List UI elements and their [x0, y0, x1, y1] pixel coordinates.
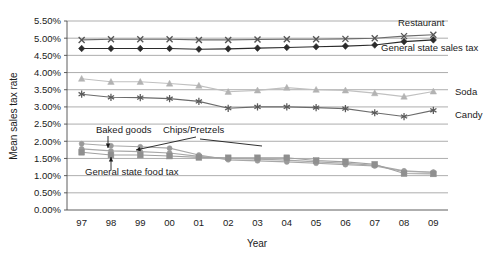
y-axis-tick-label: 1.00% — [34, 170, 61, 181]
annotation-leader-line — [200, 139, 262, 146]
x-axis-tick-label: 02 — [223, 217, 234, 228]
x-axis-tick-label: 09 — [428, 217, 439, 228]
x-axis-tick-label: 06 — [340, 217, 351, 228]
data-point-marker-diamond-filled — [196, 46, 202, 53]
x-axis-title: Year — [247, 238, 268, 249]
data-point-marker-square — [225, 155, 231, 161]
data-point-marker-square — [79, 149, 85, 155]
data-point-marker-circle-light — [167, 146, 172, 151]
x-axis-tick-label: 03 — [252, 217, 263, 228]
x-axis-tick-label: 08 — [399, 217, 410, 228]
data-point-marker-diamond-filled — [137, 45, 143, 52]
data-point-marker-square — [343, 159, 349, 165]
data-point-marker-triangle-up — [78, 75, 84, 81]
series-inline-label: Candy — [455, 109, 483, 120]
annotation-label: Chips/Pretzels — [163, 124, 224, 135]
data-point-marker-triangle-up — [430, 88, 436, 94]
data-point-marker-diamond-filled — [108, 45, 114, 52]
y-axis-tick-label: 3.00% — [34, 101, 61, 112]
y-axis-tick-label: 4.50% — [34, 50, 61, 61]
y-axis-tick-label: 3.50% — [34, 84, 61, 95]
data-point-marker-square — [313, 158, 319, 164]
y-axis-tick-label: 4.00% — [34, 67, 61, 78]
x-axis-tick-label: 98 — [106, 217, 117, 228]
y-axis-tick-label: 5.00% — [34, 33, 61, 44]
data-series-group — [78, 32, 436, 177]
data-point-marker-circle-light — [79, 141, 84, 146]
data-point-marker-diamond-filled — [372, 42, 378, 49]
x-axis-tick-labels: 97989900010203040506070809 — [76, 217, 438, 228]
x-axis-tick-label: 00 — [164, 217, 175, 228]
data-point-marker-diamond-filled — [225, 46, 231, 53]
annotation-label: General state food tax — [85, 166, 179, 177]
x-axis-tick-label: 05 — [311, 217, 322, 228]
x-axis-tick-label: 07 — [369, 217, 380, 228]
data-point-marker-diamond-filled — [284, 44, 290, 51]
data-point-marker-square — [137, 152, 143, 158]
data-point-marker-square — [430, 171, 436, 177]
data-point-marker-diamond-filled — [166, 45, 172, 52]
data-point-marker-square — [401, 171, 407, 177]
annotation-label: Baked goods — [96, 124, 152, 135]
y-axis-tick-label: 2.50% — [34, 118, 61, 129]
y-axis-tick-label: 5.50% — [34, 15, 61, 26]
x-axis-tick-label: 97 — [76, 217, 87, 228]
x-axis-tick-label: 01 — [194, 217, 205, 228]
sales-tax-rate-line-chart: 0.00%0.50%1.00%1.50%2.00%2.50%3.00%3.50%… — [0, 0, 492, 255]
series-inline-label: Restaurant — [398, 17, 445, 28]
chart-container: 0.00%0.50%1.00%1.50%2.00%2.50%3.00%3.50%… — [0, 0, 492, 255]
data-point-marker-square — [284, 155, 290, 161]
y-axis-tick-label: 0.00% — [34, 204, 61, 215]
data-point-marker-diamond-filled — [313, 43, 319, 50]
data-point-marker-diamond-filled — [79, 45, 85, 52]
data-point-marker-square — [167, 153, 173, 159]
y-axis-tick-label: 1.50% — [34, 153, 61, 164]
series-inline-label: General state sales tax — [381, 42, 478, 53]
x-axis-tick-label: 99 — [135, 217, 146, 228]
series-soda — [78, 75, 436, 99]
y-axis-title: Mean sales tax rate — [8, 72, 19, 160]
data-point-marker-diamond-filled — [254, 45, 260, 52]
data-point-marker-square — [196, 155, 202, 161]
x-axis-tick-label: 04 — [282, 217, 293, 228]
data-point-marker-diamond-filled — [342, 43, 348, 50]
data-point-marker-square — [372, 161, 378, 167]
y-axis-tick-label: 2.00% — [34, 136, 61, 147]
data-point-marker-square — [255, 155, 261, 161]
series-candy — [79, 91, 437, 121]
y-axis-tick-label: 0.50% — [34, 187, 61, 198]
y-axis-tick-labels: 0.00%0.50%1.00%1.50%2.00%2.50%3.00%3.50%… — [34, 15, 61, 215]
series-inline-label: Soda — [455, 86, 478, 97]
